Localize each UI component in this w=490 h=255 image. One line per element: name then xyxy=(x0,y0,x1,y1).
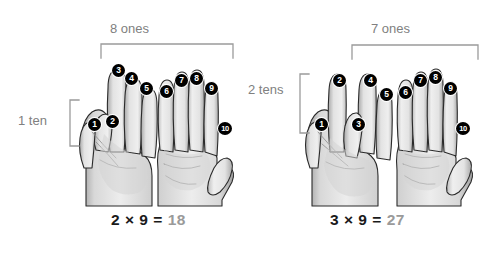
tens-label-right: 2 tens xyxy=(248,83,283,96)
finger-badge-1-panel-left: 1 xyxy=(88,118,101,131)
equation-right-factor: 3 xyxy=(330,211,339,228)
equation-left-factor: 2 xyxy=(111,211,120,228)
equation-left-equals: = xyxy=(153,211,163,228)
equation-right-operator: × xyxy=(344,211,354,228)
finger-badge-2-panel-right: 2 xyxy=(333,74,346,87)
finger-badge-1-panel-right: 1 xyxy=(315,118,328,131)
finger-badge-7-panel-right: 7 xyxy=(414,74,427,87)
finger-badge-2-panel-left: 2 xyxy=(106,115,119,128)
finger-badge-8-panel-right: 8 xyxy=(429,71,442,84)
figure-root: 8 ones 1 ten 2 × 9 = 18 7 ones 2 tens 3 … xyxy=(0,0,490,255)
finger-badge-9-panel-left: 9 xyxy=(205,82,218,95)
finger-badge-8-panel-left: 8 xyxy=(190,72,203,85)
finger-badge-6-panel-left: 6 xyxy=(160,85,173,98)
panel-right: 7 ones 2 tens 3 × 9 = 27 xyxy=(245,0,490,255)
equation-right: 3 × 9 = 27 xyxy=(330,211,405,229)
equation-left-operator: × xyxy=(125,211,135,228)
equation-right-equals: = xyxy=(372,211,382,228)
finger-badge-7-panel-left: 7 xyxy=(175,74,188,87)
ones-label-right: 7 ones xyxy=(371,22,410,35)
panel-left: 8 ones 1 ten 2 × 9 = 18 xyxy=(0,0,245,255)
finger-badge-3-panel-right: 3 xyxy=(352,118,365,131)
equation-left-result: 18 xyxy=(168,211,186,228)
finger-badge-10-panel-right: 10 xyxy=(456,122,470,135)
finger-badge-5-panel-right: 5 xyxy=(380,88,393,101)
equation-left: 2 × 9 = 18 xyxy=(111,211,186,229)
finger-badge-6-panel-right: 6 xyxy=(399,86,412,99)
equation-right-result: 27 xyxy=(387,211,405,228)
ones-label-left: 8 ones xyxy=(110,22,149,35)
finger-badge-4-panel-left: 4 xyxy=(125,72,138,85)
tens-label-left: 1 ten xyxy=(18,114,47,127)
finger-badge-5-panel-left: 5 xyxy=(140,82,153,95)
finger-badge-4-panel-right: 4 xyxy=(364,74,377,87)
finger-badge-10-panel-left: 10 xyxy=(218,122,232,135)
equation-left-right-factor: 9 xyxy=(139,211,148,228)
finger-badge-9-panel-right: 9 xyxy=(444,82,457,95)
equation-right-right-factor: 9 xyxy=(358,211,367,228)
finger-badge-3-panel-left: 3 xyxy=(112,64,125,77)
